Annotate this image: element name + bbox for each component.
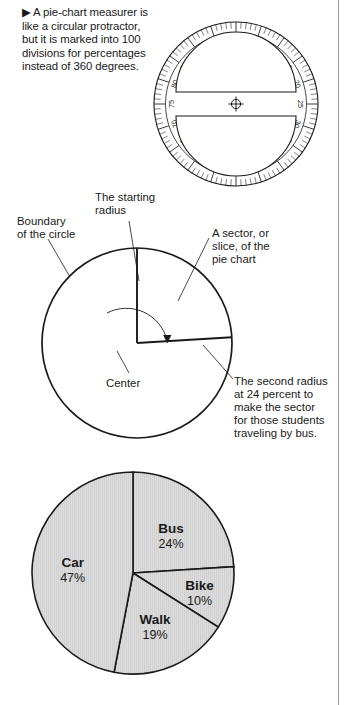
pie-slice-name: Bus bbox=[158, 521, 184, 536]
protractor-figure: 05101520253035404550556065707580859095 bbox=[150, 14, 330, 194]
pie-slice-name: Walk bbox=[140, 612, 171, 627]
circle-diagram-figure: Boundary of the circle The starting radi… bbox=[0, 193, 345, 443]
pie-slice-name: Car bbox=[61, 555, 84, 570]
label-second-radius-line2: at 24 percent to bbox=[234, 388, 313, 400]
label-sector: A sector, or slice, of the pie chart bbox=[212, 227, 270, 265]
pie-slice-value: 24% bbox=[159, 537, 184, 551]
label-starting-radius-line2: radius bbox=[95, 204, 126, 216]
pie-slice-value: 47% bbox=[60, 571, 85, 585]
label-sector-line1: A sector, or bbox=[212, 227, 269, 239]
label-second-radius-line3: make the sector bbox=[234, 401, 315, 413]
protractor-tick-label: 25 bbox=[296, 100, 305, 108]
label-second-radius-line1: The second radius bbox=[234, 375, 328, 387]
pie-slice-name: Bike bbox=[185, 578, 214, 593]
label-sector-line2: slice, of the bbox=[212, 240, 270, 252]
label-boundary-line1: Boundary bbox=[17, 215, 66, 227]
label-starting-radius-line1: The starting bbox=[95, 191, 155, 203]
label-boundary-line2: of the circle bbox=[17, 228, 75, 240]
label-second-radius-line4: for those students bbox=[234, 414, 325, 426]
label-second-radius: The second radius at 24 percent to make … bbox=[234, 375, 328, 439]
protractor-body: 05101520253035404550556065707580859095 bbox=[154, 22, 318, 186]
pie-slice-value: 10% bbox=[187, 594, 212, 608]
protractor-tick-label: 75 bbox=[167, 100, 176, 108]
circle-diagram-svg: Boundary of the circle The starting radi… bbox=[0, 193, 345, 443]
label-second-radius-line5: traveling by bus. bbox=[234, 427, 317, 439]
pie-chart-svg: Bus24%Bike10%Walk19%Car47% bbox=[28, 466, 248, 686]
pie-chart-figure: Bus24%Bike10%Walk19%Car47% bbox=[28, 466, 248, 686]
label-center: Center bbox=[106, 377, 140, 389]
figure-caption: ▶ A pie-chart measurer is like a circula… bbox=[22, 6, 150, 74]
pie-slice-value: 19% bbox=[143, 628, 168, 642]
leader-boundary bbox=[48, 239, 70, 277]
label-sector-line3: pie chart bbox=[212, 253, 257, 265]
label-starting-radius: The starting radius bbox=[95, 191, 155, 216]
protractor-svg: 05101520253035404550556065707580859095 bbox=[150, 14, 330, 194]
label-boundary: Boundary of the circle bbox=[17, 215, 75, 240]
caption-marker-icon: ▶ bbox=[22, 6, 31, 18]
caption-text: A pie-chart measurer is like a circular … bbox=[22, 6, 148, 72]
page-canvas: ▶ A pie-chart measurer is like a circula… bbox=[0, 0, 345, 705]
